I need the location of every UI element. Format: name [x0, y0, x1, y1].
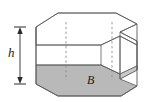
arrow-head-bottom	[17, 77, 22, 84]
height-dimension-arrow	[14, 27, 26, 84]
height-label: h	[8, 46, 15, 59]
prism-drawing	[0, 0, 144, 102]
base-notch-sliver	[120, 66, 137, 79]
arrow-head-top	[17, 27, 22, 34]
base-area-label: B	[87, 74, 94, 86]
geometry-figure-prism: h B	[0, 0, 144, 102]
